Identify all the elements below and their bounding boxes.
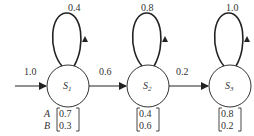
symbol-a: A — [43, 108, 51, 119]
svg-text:0.6: 0.6 — [139, 120, 152, 131]
svg-text:0.2: 0.2 — [221, 120, 234, 131]
hmm-diagram: 1.0 0.4 S1 0.6 0.8 S2 0.2 1.0 S3 A B — [0, 0, 254, 136]
self-loop-label-s3: 1.0 — [226, 2, 239, 13]
self-loop-s1 — [53, 13, 81, 66]
svg-text:0.3: 0.3 — [59, 120, 72, 131]
transition-label-s1-s2: 0.6 — [99, 66, 112, 77]
self-loop-arrow-icon — [82, 36, 88, 42]
initial-transition: 1.0 — [15, 66, 46, 86]
emission-vector-s2: 0.4 0.6 — [137, 108, 159, 131]
self-loop-s3 — [215, 13, 243, 66]
state-s1: 0.4 S1 — [47, 2, 89, 107]
self-loop-label-s1: 0.4 — [68, 2, 81, 13]
transition-s2-s3: 0.2 — [169, 66, 208, 86]
emission-vector-s1: 0.7 0.3 — [57, 108, 79, 131]
self-loop-arrow-icon — [244, 36, 250, 42]
self-loop-s2 — [133, 13, 161, 66]
svg-text:0.8: 0.8 — [221, 108, 234, 119]
transition-label-s2-s3: 0.2 — [176, 66, 189, 77]
emission-symbols: A B — [43, 108, 51, 131]
self-loop-label-s2: 0.8 — [141, 2, 154, 13]
state-s3: 1.0 S3 — [209, 2, 251, 107]
state-s2: 0.8 S2 — [127, 2, 169, 107]
emission-vector-s3: 0.8 0.2 — [219, 108, 241, 131]
transition-s1-s2: 0.6 — [89, 66, 126, 86]
initial-prob-label: 1.0 — [24, 66, 37, 77]
self-loop-arrow-icon — [162, 36, 168, 42]
svg-text:0.7: 0.7 — [59, 108, 72, 119]
symbol-b: B — [44, 120, 50, 131]
svg-text:0.4: 0.4 — [139, 108, 152, 119]
